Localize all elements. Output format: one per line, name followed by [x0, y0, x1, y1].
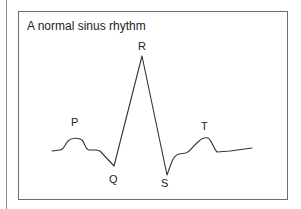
- ecg-waveform: [0, 0, 301, 209]
- wave-label-r: R: [138, 41, 146, 52]
- wave-label-p: P: [71, 117, 78, 128]
- wave-label-t: T: [201, 121, 208, 132]
- wave-label-s: S: [161, 178, 168, 189]
- wave-label-q: Q: [109, 174, 118, 185]
